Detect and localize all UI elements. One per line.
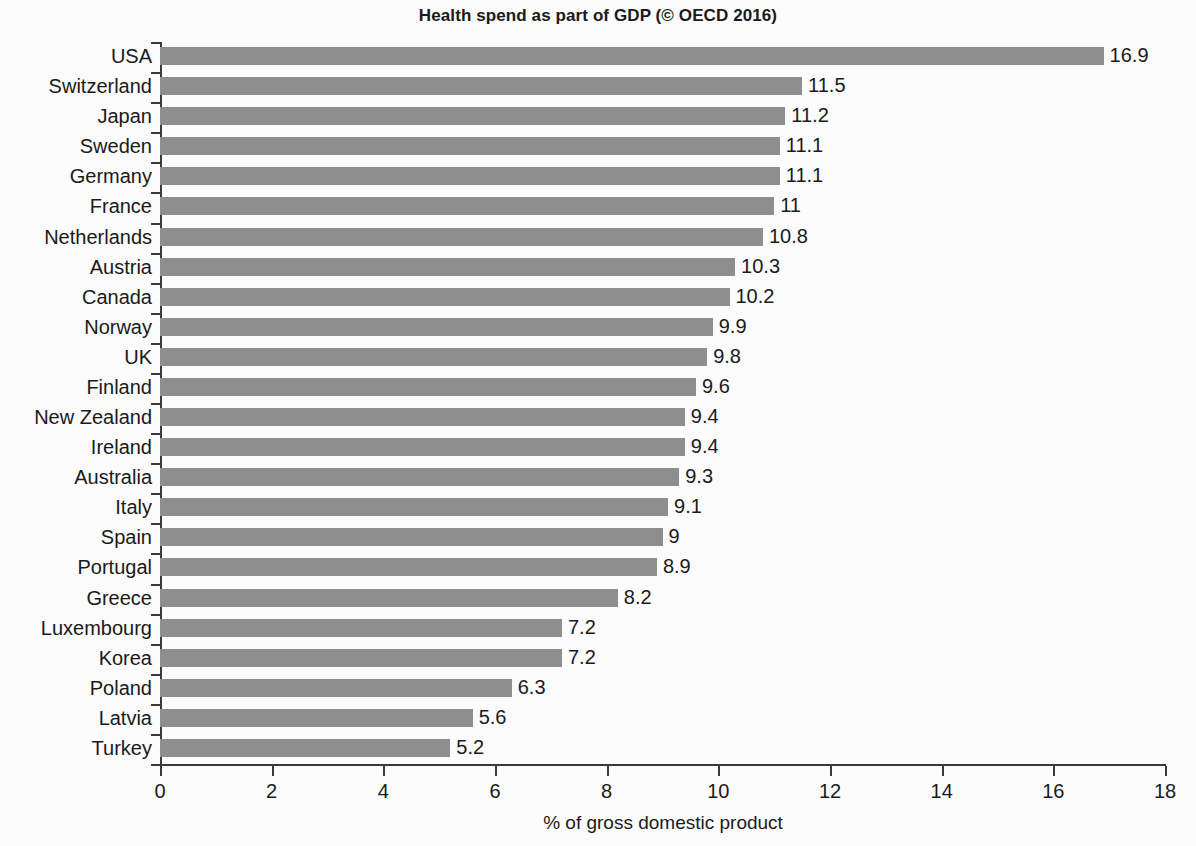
category-label-switzerland: Switzerland [0,75,152,98]
category-label-turkey: Turkey [0,737,152,760]
category-label-sweden: Sweden [0,135,152,158]
x-axis-tick [942,766,944,776]
x-axis-tick [383,766,385,776]
bar [160,137,780,155]
bar-value-label: 9.9 [719,315,747,338]
bar [160,739,450,757]
x-axis-tick [1053,766,1055,776]
category-label-netherlands: Netherlands [0,226,152,249]
x-axis-title: % of gross domestic product [160,812,1166,834]
bar-value-label: 11.1 [786,164,823,187]
x-axis-tick-label: 2 [242,780,302,803]
bar [160,408,685,426]
bar-value-label: 9.3 [685,465,713,488]
bar-value-label: 9 [669,525,680,548]
bar-value-label: 9.4 [691,405,719,428]
category-label-australia: Australia [0,466,152,489]
category-label-norway: Norway [0,316,152,339]
category-label-new-zealand: New Zealand [0,406,152,429]
bar [160,77,802,95]
x-axis-tick-label: 0 [130,780,190,803]
bar-value-label: 8.2 [624,586,652,609]
bar-row: 9.1 [160,493,1165,522]
bar-value-label: 7.2 [568,616,596,639]
category-label-japan: Japan [0,105,152,128]
bar-row: 11.2 [160,102,1165,131]
bar-row: 11.1 [160,132,1165,161]
bar-row: 10.8 [160,223,1165,252]
bar-row: 5.2 [160,734,1165,763]
bar-value-label: 5.2 [456,736,484,759]
bar-value-label: 10.8 [769,225,808,248]
bar-value-label: 9.6 [702,375,730,398]
chart-page: Health spend as part of GDP (© OECD 2016… [0,0,1196,846]
category-label-usa: USA [0,45,152,68]
bar-value-label: 9.8 [713,345,741,368]
x-axis-tick [272,766,274,776]
category-label-austria: Austria [0,256,152,279]
category-label-luxembourg: Luxembourg [0,617,152,640]
category-label-italy: Italy [0,496,152,519]
bar [160,318,713,336]
bar [160,348,707,366]
category-label-france: France [0,195,152,218]
bar [160,107,785,125]
bar [160,378,696,396]
bar-value-label: 11.1 [786,134,823,157]
bar-value-label: 11 [780,194,801,217]
bar-value-label: 11.5 [808,74,845,97]
category-label-latvia: Latvia [0,707,152,730]
bar-row: 7.2 [160,614,1165,643]
bar-row: 11 [160,192,1165,221]
bar [160,197,774,215]
bar-value-label: 10.2 [736,285,775,308]
bar-row: 8.2 [160,584,1165,613]
bar-row: 11.1 [160,162,1165,191]
x-axis-tick-label: 12 [800,780,860,803]
x-axis-tick-label: 4 [353,780,413,803]
x-axis-tick [160,766,162,776]
x-axis-tick-label: 8 [577,780,637,803]
category-label-germany: Germany [0,165,152,188]
bar-value-label: 11.2 [791,104,828,127]
category-label-portugal: Portugal [0,556,152,579]
bar-row: 6.3 [160,674,1165,703]
category-label-uk: UK [0,346,152,369]
x-axis-tick [1165,766,1167,776]
category-label-ireland: Ireland [0,436,152,459]
bar-row: 11.5 [160,72,1165,101]
bar-row: 9.6 [160,373,1165,402]
bar [160,258,735,276]
bar-value-label: 16.9 [1110,44,1149,67]
bar [160,438,685,456]
bar-value-label: 9.4 [691,435,719,458]
bar [160,528,663,546]
chart-title: Health spend as part of GDP (© OECD 2016… [0,6,1196,26]
plot-area: 16.911.511.211.111.11110.810.310.29.99.8… [160,42,1165,764]
bar-row: 9 [160,523,1165,552]
bar [160,498,668,516]
bar-value-label: 7.2 [568,646,596,669]
x-axis-tick [495,766,497,776]
category-label-finland: Finland [0,376,152,399]
bar [160,649,562,667]
bar-row: 9.9 [160,313,1165,342]
bar-row: 9.3 [160,463,1165,492]
bar-row: 16.9 [160,42,1165,71]
bar-row: 9.4 [160,433,1165,462]
bar [160,288,730,306]
bar [160,709,473,727]
bar-row: 7.2 [160,644,1165,673]
x-axis-tick [607,766,609,776]
category-label-poland: Poland [0,677,152,700]
x-axis-line [160,764,1166,766]
bar-value-label: 10.3 [741,255,780,278]
x-axis-tick [830,766,832,776]
category-label-greece: Greece [0,587,152,610]
bar [160,589,618,607]
bar-row: 5.6 [160,704,1165,733]
bar [160,228,763,246]
x-axis-tick-label: 16 [1023,780,1083,803]
x-axis-tick-label: 6 [465,780,525,803]
bar-value-label: 9.1 [674,495,702,518]
